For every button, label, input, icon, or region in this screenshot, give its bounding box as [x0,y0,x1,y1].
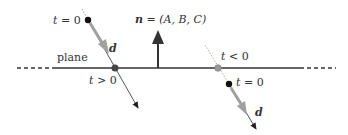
ray-plane-diagram: plane n = (A, B, C) t = 0 d t > 0 t < 0 … [0,0,348,135]
left-ray [82,9,138,108]
ray-origin-point [85,17,91,23]
direction-arrow-icon [237,101,247,115]
left-intersection-label: t > 0 [89,74,117,87]
normal-arrow-icon [152,30,164,68]
left-direction-label: d [109,42,117,55]
normal-label: n = (A, B, C) [135,13,206,26]
behind-intersection-point [215,65,222,72]
plane-label: plane [57,51,88,64]
right-origin-label: t = 0 [236,76,264,89]
right-direction-label: d [255,106,263,119]
left-origin-label: t = 0 [53,14,81,27]
right-intersection-label: t < 0 [221,50,249,63]
intersection-point [112,65,119,72]
ray-origin-point [226,81,232,87]
